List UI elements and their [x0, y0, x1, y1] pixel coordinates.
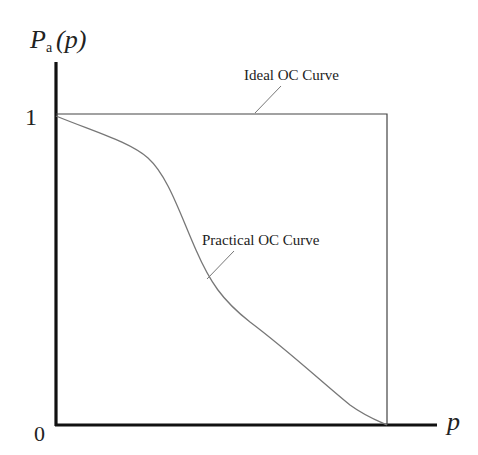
ideal-oc-curve-label: Ideal OC Curve — [244, 67, 339, 83]
y-axis-label-argument: (p) — [56, 25, 86, 54]
ideal-leader-line — [255, 86, 281, 113]
oc-curve-diagram: P a (p) p 1 0 Ideal OC Curve Practical O… — [0, 0, 478, 455]
y-axis-label: P — [29, 25, 46, 54]
practical-leader-line — [207, 251, 234, 279]
practical-oc-curve — [56, 116, 387, 425]
practical-oc-curve-label: Practical OC Curve — [202, 232, 320, 248]
x-axis-label: p — [445, 407, 460, 436]
origin-label: 0 — [34, 421, 45, 446]
ideal-oc-curve — [56, 114, 387, 425]
y-tick-one: 1 — [25, 104, 37, 130]
y-axis-label-subscript: a — [46, 40, 53, 55]
